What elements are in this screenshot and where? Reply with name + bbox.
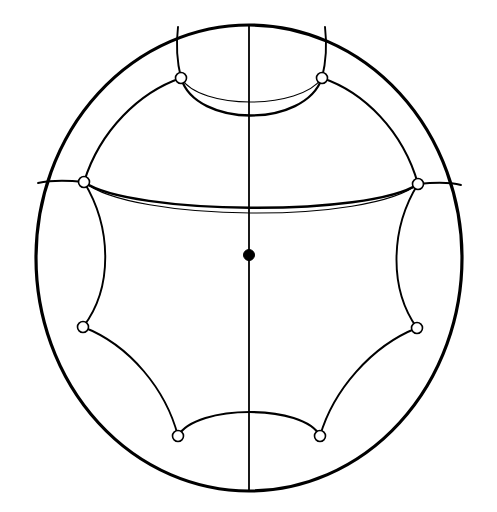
radial-top-right-to-boundary bbox=[322, 27, 326, 78]
arc-thick-top-pair bbox=[181, 78, 322, 116]
vertex-top-right bbox=[317, 73, 328, 84]
radial-mid-right-to-boundary bbox=[418, 183, 461, 185]
hyperbolic-disk-figure bbox=[0, 0, 497, 512]
arc-top-right-to-mid-right bbox=[322, 78, 418, 184]
arc-thick-mid-pair bbox=[84, 182, 418, 208]
vertex-bottom-right bbox=[315, 431, 326, 442]
radial-mid-left-to-boundary bbox=[38, 181, 84, 183]
vertex-low-right bbox=[412, 323, 423, 334]
vertex-mid-left bbox=[79, 177, 90, 188]
vertex-low-left bbox=[78, 322, 89, 333]
radial-top-left-to-boundary bbox=[177, 27, 181, 78]
arc-mid-left-to-low-left bbox=[83, 182, 105, 327]
arc-mid-right-to-low-right bbox=[396, 184, 418, 328]
center-basepoint-dot bbox=[244, 250, 255, 261]
figure-canvas bbox=[0, 0, 497, 512]
vertex-bottom-left bbox=[173, 431, 184, 442]
vertex-mid-right bbox=[413, 179, 424, 190]
arc-thin-top-pair bbox=[181, 78, 322, 102]
center-point-group bbox=[244, 250, 255, 261]
vertex-top-left bbox=[176, 73, 187, 84]
